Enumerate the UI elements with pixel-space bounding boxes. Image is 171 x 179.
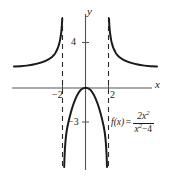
fraction: 2x2 x2−4 bbox=[133, 112, 155, 134]
rational-function-figure: y x −2 2 4 −3 f(x) = 2x2 x2−4 bbox=[0, 0, 171, 179]
equals-sign: = bbox=[126, 118, 131, 128]
y-axis-label: y bbox=[87, 6, 92, 17]
curve-left-branch bbox=[14, 19, 62, 67]
x-tick-label-pos2: 2 bbox=[110, 90, 115, 100]
function-formula-annotation: f(x) = 2x2 x2−4 bbox=[111, 112, 154, 134]
numerator-exponent: 2 bbox=[146, 109, 149, 116]
fraction-numerator: 2x2 bbox=[135, 112, 151, 123]
denominator-constant: 4 bbox=[147, 124, 152, 134]
curve-right-branch bbox=[109, 19, 157, 67]
x-axis-label: x bbox=[155, 79, 160, 90]
x-tick-label-neg2: −2 bbox=[52, 90, 63, 100]
function-name: f(x) bbox=[111, 118, 124, 128]
y-tick-label-neg3: −3 bbox=[68, 117, 79, 127]
graph-canvas bbox=[0, 0, 171, 179]
y-tick-label-4: 4 bbox=[71, 37, 76, 47]
fraction-denominator: x2−4 bbox=[133, 124, 155, 135]
